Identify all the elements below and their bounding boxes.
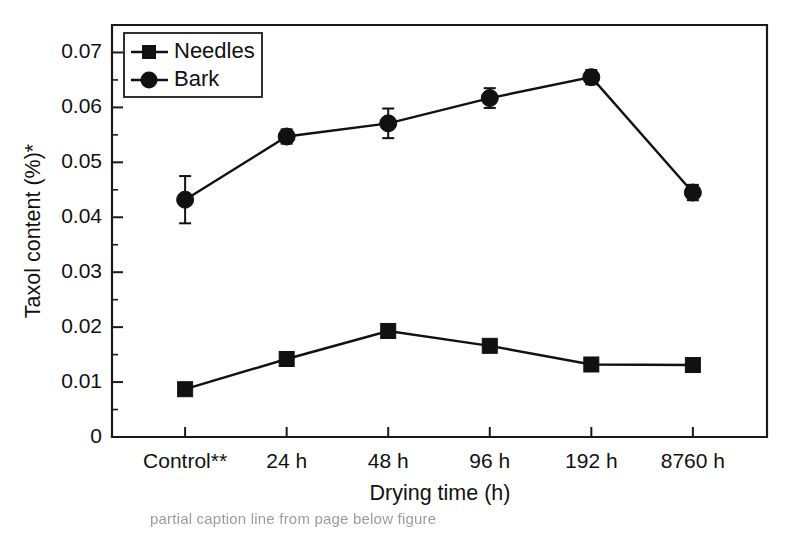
y-tick-label: 0.05: [61, 149, 102, 172]
figure-container: 00.010.020.030.040.050.060.07 Control**2…: [0, 0, 792, 534]
data-point-marker: [279, 351, 294, 366]
data-point-marker: [482, 338, 497, 353]
x-tick-label: 48 h: [368, 449, 409, 472]
data-point-marker: [380, 115, 397, 132]
taxol-content-line-chart: 00.010.020.030.040.050.060.07 Control**2…: [0, 0, 792, 534]
data-point-marker: [381, 323, 396, 338]
x-tick-label: 24 h: [266, 449, 307, 472]
legend-marker-circle-icon: [141, 72, 158, 89]
y-tick-label: 0.01: [61, 369, 102, 392]
y-tick-label: 0: [90, 424, 102, 447]
data-point-marker: [178, 382, 193, 397]
y-tick-label: 0.06: [61, 94, 102, 117]
x-tick-label: Control**: [143, 449, 227, 472]
y-tick-label: 0.07: [61, 39, 102, 62]
y-tick-label: 0.03: [61, 259, 102, 282]
legend-marker-square-icon: [142, 45, 156, 59]
x-tick-label: 192 h: [565, 449, 618, 472]
legend-label-needles: Needles: [174, 38, 255, 63]
data-point-marker: [583, 69, 600, 86]
x-axis-title: Drying time (h): [370, 481, 511, 505]
data-point-marker: [481, 90, 498, 107]
y-tick-label: 0.02: [61, 314, 102, 337]
y-tick-label: 0.04: [61, 204, 102, 227]
y-axis-title: Taxol content (%)*: [21, 143, 45, 318]
chart-legend: Needles Bark: [124, 33, 262, 97]
data-point-marker: [584, 357, 599, 372]
data-point-marker: [685, 358, 700, 373]
data-point-marker: [177, 191, 194, 208]
data-point-marker: [684, 184, 701, 201]
x-tick-label: 96 h: [469, 449, 510, 472]
x-tick-label: 8760 h: [661, 449, 725, 472]
legend-label-bark: Bark: [174, 66, 220, 91]
data-point-marker: [278, 128, 295, 145]
